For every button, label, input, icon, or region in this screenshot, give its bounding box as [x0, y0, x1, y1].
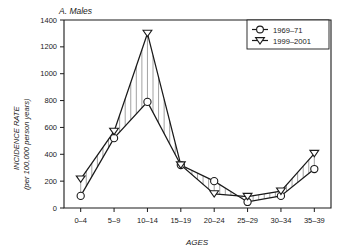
legend-entry-0: 1969–71	[252, 26, 303, 35]
y-tick-label: 1000	[40, 69, 57, 78]
panel-title: A. Males	[58, 6, 93, 16]
data-point-circle	[144, 98, 151, 105]
data-point-circle	[311, 165, 318, 172]
data-point-circle	[110, 135, 117, 142]
x-tick-label: 0–4	[74, 216, 87, 225]
y-tick-label: 0	[53, 204, 57, 213]
y-axis-title-main: INCIDENCE RATE	[12, 105, 21, 170]
data-point-circle	[211, 178, 218, 185]
x-tick-label: 10–14	[137, 216, 158, 225]
legend-circle-icon	[257, 26, 264, 33]
y-tick-label: 200	[44, 177, 57, 186]
x-tick-label: 15–19	[170, 216, 191, 225]
legend-label-0: 1969–71	[273, 26, 303, 35]
y-tick-label: 1400	[40, 16, 57, 25]
chart-figure: A. Males INCIDENCE RATE (per 100,000 per…	[0, 0, 345, 251]
legend-label-1: 1999–2001	[273, 37, 311, 46]
y-tick-label: 1200	[40, 42, 57, 51]
x-axis-title: AGES	[185, 238, 209, 247]
incidence-rate-line-chart: A. Males INCIDENCE RATE (per 100,000 per…	[0, 0, 345, 251]
x-tick-label: 35–39	[304, 216, 325, 225]
x-tick-label: 30–34	[271, 216, 292, 225]
data-point-circle	[77, 192, 84, 199]
y-tick-label: 600	[44, 123, 57, 132]
x-tick-label: 20–24	[204, 216, 225, 225]
y-tick-label: 800	[44, 96, 57, 105]
x-tick-label: 25–29	[237, 216, 258, 225]
y-tick-label: 400	[44, 150, 57, 159]
x-tick-label: 5–9	[108, 216, 121, 225]
y-axis-title-units: (per 100,000 person years)	[22, 98, 31, 190]
chart-legend: 1969–71 1999–2001	[247, 20, 329, 49]
